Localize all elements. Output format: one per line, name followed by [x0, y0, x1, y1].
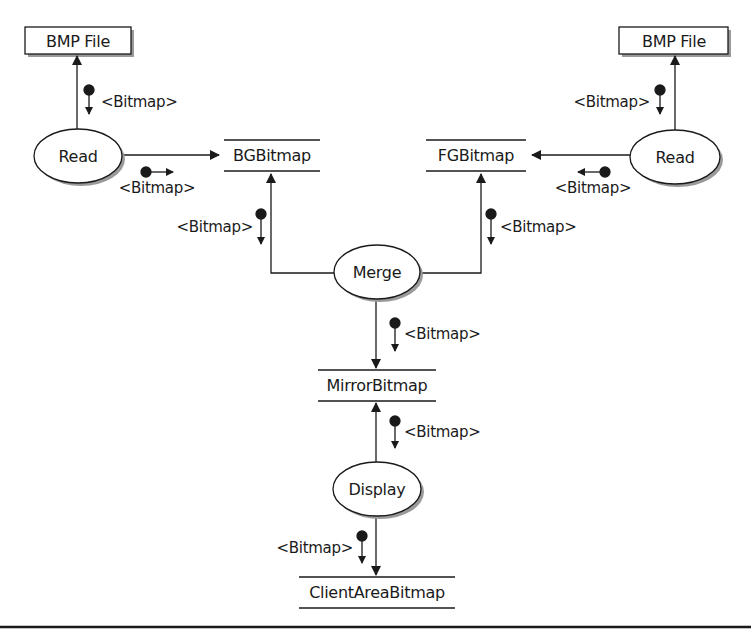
- store-mirrorbitmap: MirrorBitmap: [318, 370, 436, 401]
- couple-label: <Bitmap>: [555, 179, 631, 197]
- data-couple-icon: [84, 85, 94, 114]
- couple-label: <Bitmap>: [119, 179, 195, 197]
- couple-label: <Bitmap>: [177, 218, 253, 236]
- couple-label: <Bitmap>: [404, 423, 480, 441]
- store-fgbitmap: FGBitmap: [426, 140, 526, 171]
- couple-label: <Bitmap>: [500, 218, 576, 236]
- diagram-canvas: BMP File BMP File Read Read: [0, 0, 751, 633]
- process-display: Display: [333, 462, 424, 519]
- couple-label: <Bitmap>: [277, 539, 353, 557]
- store-bgbitmap: BGBitmap: [224, 140, 320, 171]
- process-merge: Merge: [334, 245, 423, 302]
- store-bgbitmap-label: BGBitmap: [233, 146, 311, 165]
- store-clientareabitmap-label: ClientAreaBitmap: [309, 583, 445, 602]
- data-couple-icon: [486, 209, 496, 244]
- bmp-file-left-terminator: BMP File: [25, 27, 134, 57]
- data-couple-icon: [578, 167, 610, 177]
- bmp-file-right-terminator: BMP File: [619, 27, 731, 57]
- process-merge-label: Merge: [353, 263, 401, 282]
- data-couple-icon: [655, 85, 665, 114]
- data-couple-icon: [390, 416, 400, 448]
- store-clientareabitmap: ClientAreaBitmap: [299, 577, 455, 608]
- process-display-label: Display: [349, 480, 406, 499]
- couple-label: <Bitmap>: [101, 93, 177, 111]
- process-read-left-label: Read: [58, 147, 97, 166]
- connector-merge-fg: [420, 174, 481, 273]
- data-couple-icon: [390, 318, 400, 351]
- store-fgbitmap-label: FGBitmap: [438, 146, 515, 165]
- process-read-right-label: Read: [655, 148, 694, 167]
- connector-merge-bg: [271, 174, 334, 273]
- store-mirrorbitmap-label: MirrorBitmap: [327, 376, 428, 395]
- data-couple-icon: [256, 209, 266, 244]
- process-read-right: Read: [630, 130, 723, 187]
- data-couple-icon: [357, 531, 367, 563]
- couple-label: <Bitmap>: [574, 93, 650, 111]
- bmp-file-left-label: BMP File: [46, 32, 110, 51]
- process-read-left: Read: [34, 129, 125, 186]
- data-couple-icon: [141, 167, 173, 177]
- bmp-file-right-label: BMP File: [642, 32, 706, 51]
- couple-label: <Bitmap>: [404, 325, 480, 343]
